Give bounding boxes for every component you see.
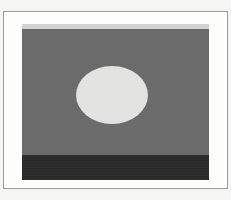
caption-text [22,181,209,187]
image-viewer [0,0,231,200]
light-ellipse-shape [76,66,148,124]
bottom-dark-band [22,155,209,180]
picture-plate[interactable] [22,24,209,180]
